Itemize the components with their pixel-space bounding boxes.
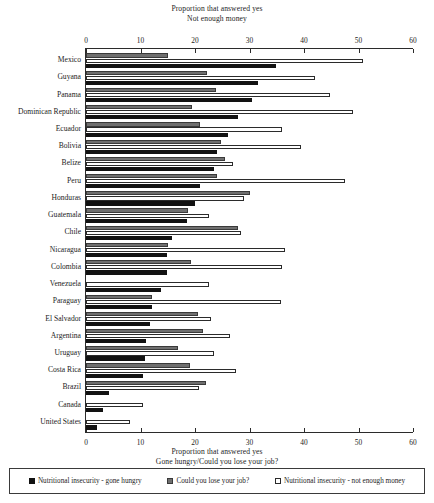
x-tick-label-bottom: 0 — [71, 438, 101, 447]
category-label: Honduras — [51, 193, 81, 202]
category-label: Belize — [62, 158, 81, 167]
bar-job — [86, 226, 238, 230]
category-label: Chile — [65, 227, 81, 236]
bar-row: Belize — [86, 155, 413, 172]
bar-job — [86, 157, 225, 161]
category-label: Guyana — [57, 72, 81, 81]
bar-money — [86, 59, 363, 63]
x-tick-label-top: 0 — [71, 36, 101, 45]
legend-box: Nutritional insecurity - gone hungryCoul… — [9, 468, 425, 494]
x-tick-label-bottom: 50 — [344, 438, 374, 447]
bar-row: Ecuador — [86, 121, 413, 138]
category-label: Canada — [58, 400, 81, 409]
bottom-title-line1: Proportion that answered yes — [0, 447, 434, 457]
x-tick-label-top: 40 — [289, 36, 319, 45]
bar-row: Guatemala — [86, 207, 413, 224]
bar-hungry — [86, 374, 143, 378]
bar-job — [86, 243, 168, 247]
bar-row: Peru — [86, 173, 413, 190]
bottom-axis-line — [86, 432, 413, 433]
bar-money — [86, 110, 353, 114]
category-label: Mexico — [58, 55, 81, 64]
category-label: Guatemala — [48, 210, 81, 219]
bar-money — [86, 351, 214, 355]
bar-row: Venezuela — [86, 276, 413, 293]
bar-hungry — [86, 167, 214, 171]
bar-money — [86, 127, 282, 131]
bar-job — [86, 295, 152, 299]
bar-row: Colombia — [86, 259, 413, 276]
bar-row: Chile — [86, 224, 413, 241]
bar-row: Uruguay — [86, 345, 413, 362]
bar-hungry — [86, 339, 146, 343]
x-tick-label-top: 30 — [235, 36, 265, 45]
category-label: El Salvador — [45, 314, 81, 323]
legend-item-job[interactable]: Could you lose your job? — [167, 477, 249, 486]
bar-job — [86, 53, 168, 57]
bottom-title-line2: Gone hungry/Could you lose your job? — [0, 457, 434, 467]
bar-money — [86, 248, 285, 252]
bar-hungry — [86, 356, 145, 360]
category-label: Venezuela — [50, 279, 81, 288]
bar-hungry — [86, 236, 172, 240]
bar-hungry — [86, 408, 103, 412]
x-tick-label-top: 20 — [180, 36, 210, 45]
legend-items: Nutritional insecurity - gone hungryCoul… — [10, 469, 424, 493]
bar-job — [86, 191, 250, 195]
bar-money — [86, 162, 233, 166]
bar-row: Costa Rica — [86, 362, 413, 379]
bar-money — [86, 420, 130, 424]
bar-hungry — [86, 150, 217, 154]
category-label: Brazil — [62, 382, 81, 391]
bar-money — [86, 145, 301, 149]
bar-hungry — [86, 288, 161, 292]
bar-money — [86, 369, 236, 373]
bar-hungry — [86, 270, 167, 274]
top-title-line2: Not enough money — [0, 14, 434, 24]
legend-label: Could you lose your job? — [176, 477, 249, 486]
plot-area: 0102030405060 0102030405060 MexicoGuyana… — [86, 48, 413, 433]
bar-row: Nicaragua — [86, 242, 413, 259]
bar-job — [86, 329, 203, 333]
legend-label: Nutritional insecurity - not enough mone… — [284, 477, 405, 486]
bar-job — [86, 312, 198, 316]
legend-label: Nutritional insecurity - gone hungry — [38, 477, 142, 486]
bar-job — [86, 260, 191, 264]
bar-row: Brazil — [86, 379, 413, 396]
bar-money — [86, 282, 209, 286]
bar-job — [86, 346, 178, 350]
bar-money — [86, 265, 282, 269]
x-tick-bottom — [413, 428, 414, 432]
bar-hungry — [86, 253, 167, 257]
bar-row: Paraguay — [86, 293, 413, 310]
category-label: Uruguay — [54, 348, 81, 357]
bar-hungry — [86, 184, 200, 188]
category-label: Panama — [57, 90, 81, 99]
bar-hungry — [86, 219, 187, 223]
bar-row: Dominican Republic — [86, 104, 413, 121]
x-tick-label-bottom: 20 — [180, 438, 210, 447]
bar-money — [86, 93, 330, 97]
bar-hungry — [86, 425, 97, 429]
bar-job — [86, 88, 216, 92]
filled-black-square-icon — [29, 478, 35, 484]
bar-hungry — [86, 305, 152, 309]
bar-money — [86, 386, 199, 390]
bar-job — [86, 122, 200, 126]
category-label: Peru — [67, 176, 81, 185]
filled-gray-square-icon — [167, 478, 173, 484]
bar-money — [86, 179, 345, 183]
bar-money — [86, 214, 209, 218]
bar-job — [86, 105, 192, 109]
x-tick-label-bottom: 30 — [235, 438, 265, 447]
bar-money — [86, 231, 241, 235]
legend-item-hungry[interactable]: Nutritional insecurity - gone hungry — [29, 477, 142, 486]
bar-hungry — [86, 133, 228, 137]
bar-row: Honduras — [86, 190, 413, 207]
top-title-line1: Proportion that answered yes — [0, 4, 434, 14]
bar-row: Guyana — [86, 69, 413, 86]
legend-item-money[interactable]: Nutritional insecurity - not enough mone… — [275, 477, 405, 486]
bar-money — [86, 334, 230, 338]
bar-hungry — [86, 201, 195, 205]
x-tick-top — [413, 49, 414, 53]
